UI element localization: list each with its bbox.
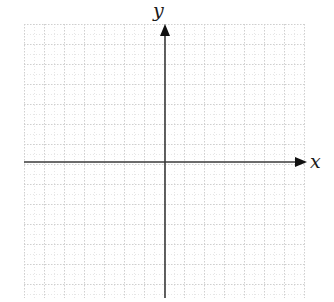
x-axis-arrowhead-icon: [295, 157, 307, 167]
y-axis-arrowhead-icon: [160, 24, 170, 36]
x-axis-label: x: [310, 152, 321, 171]
coordinate-plane: [0, 0, 334, 302]
axes: [24, 24, 307, 298]
y-axis-label: y: [153, 1, 164, 20]
